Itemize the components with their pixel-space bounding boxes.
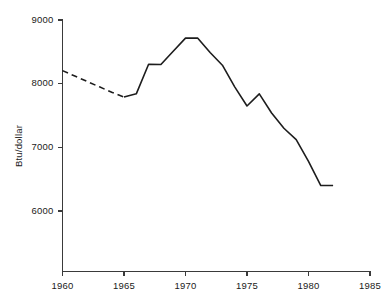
data-series-solid	[124, 38, 333, 185]
y-tick-label: 9000	[32, 14, 54, 25]
y-axis-title: Btu/dollar	[13, 125, 24, 167]
x-tick-label: 1970	[173, 280, 199, 291]
x-tick-label: 1975	[234, 280, 260, 291]
data-series-dashed	[63, 71, 125, 97]
y-tick-label: 7000	[32, 141, 54, 152]
x-tick-label: 1960	[50, 280, 76, 291]
line-chart-plot: Btu/dollar	[0, 0, 391, 302]
y-tick-label: 8000	[32, 77, 54, 88]
x-tick-label: 1985	[357, 280, 383, 291]
y-tick-label: 6000	[32, 205, 54, 216]
chart-container: Btu/dollar 196019651970197519801985 6000…	[0, 0, 391, 302]
x-tick-label: 1965	[111, 280, 137, 291]
y-axis-ticks	[58, 20, 63, 211]
x-tick-label: 1980	[296, 280, 322, 291]
